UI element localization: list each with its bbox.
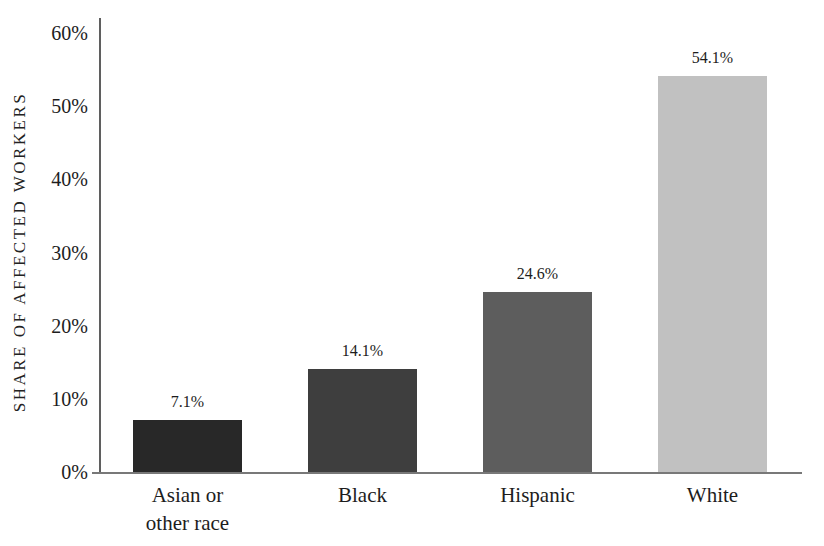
x-category-label: Asian or other race <box>90 481 285 538</box>
bar-3 <box>483 292 592 472</box>
bar-4 <box>658 76 767 472</box>
y-tick-label: 10% <box>0 387 88 411</box>
bar-1 <box>133 420 242 472</box>
x-category-label: Black <box>265 481 460 509</box>
bar-value-label: 54.1% <box>625 49 800 67</box>
plot-area: 7.1%Asian or other race14.1%Black24.6%Hi… <box>100 18 801 472</box>
x-axis-line <box>92 472 802 474</box>
bar-value-label: 7.1% <box>100 393 275 411</box>
y-tick-label: 30% <box>0 241 88 265</box>
y-tick-label: 50% <box>0 94 88 118</box>
bar-slot: 54.1%White <box>625 18 800 472</box>
x-category-label: White <box>615 481 810 509</box>
bar-2 <box>308 369 417 472</box>
x-category-label: Hispanic <box>440 481 635 509</box>
bar-slot: 24.6%Hispanic <box>450 18 625 472</box>
y-tick-label: 60% <box>0 21 88 45</box>
y-tick-label: 40% <box>0 167 88 191</box>
bar-slot: 14.1%Black <box>275 18 450 472</box>
bar-value-label: 14.1% <box>275 342 450 360</box>
bar-value-label: 24.6% <box>450 265 625 283</box>
bar-chart-figure: SHARE OF AFFECTED WORKERS 0%10%20%30%40%… <box>0 0 824 546</box>
y-tick-label: 20% <box>0 314 88 338</box>
y-axis-ticks: 0%10%20%30%40%50%60% <box>0 0 92 546</box>
y-tick-label: 0% <box>0 460 88 484</box>
bar-slot: 7.1%Asian or other race <box>100 18 275 472</box>
